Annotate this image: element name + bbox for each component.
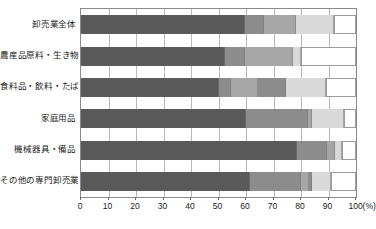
bar-segment[interactable] (246, 109, 308, 128)
x-tick-mark-80 (300, 197, 301, 200)
bar-segment[interactable] (81, 109, 246, 128)
x-tick-mark-40 (190, 197, 191, 200)
x-tick-label-30: 30 (158, 201, 167, 211)
x-tick-label-80: 80 (295, 201, 304, 211)
x-axis: 0102030405060708090100(%) (80, 197, 355, 219)
category-axis: 卸売業全体 農産品原料・生き物 食料品・飲料・たばこ 家庭用品 機械器具・備品 … (0, 0, 78, 196)
plot-area (80, 8, 357, 198)
bar-segment[interactable] (286, 78, 326, 97)
category-label-5: その他の専門卸売業 (0, 175, 76, 185)
x-tick-label-50: 50 (213, 201, 222, 211)
bar-segment[interactable] (81, 78, 219, 97)
bar-segment[interactable] (301, 47, 356, 66)
bar-row[interactable] (81, 109, 356, 128)
bar-segment[interactable] (301, 172, 309, 191)
category-label-3: 家庭用品 (0, 113, 76, 123)
x-tick-label-40: 40 (185, 201, 194, 211)
bar-segment[interactable] (81, 47, 225, 66)
bars-layer (81, 9, 356, 197)
bar-segment[interactable] (245, 15, 264, 34)
x-tick-mark-30 (163, 197, 164, 200)
bar-segment[interactable] (264, 15, 296, 34)
category-label-0: 卸売業全体 (0, 19, 76, 29)
bar-segment[interactable] (312, 172, 331, 191)
bar-segment[interactable] (327, 141, 335, 160)
bar-segment[interactable] (331, 172, 356, 191)
bar-segment[interactable] (334, 15, 356, 34)
bar-segment[interactable] (231, 78, 259, 97)
x-tick-mark-90 (328, 197, 329, 200)
x-tick-label-10: 10 (103, 201, 112, 211)
bar-row[interactable] (81, 47, 356, 66)
category-label-1: 農産品原料・生き物 (0, 50, 76, 60)
x-tick-label-60: 60 (240, 201, 249, 211)
x-tick-label-100: 100(%) (348, 201, 375, 211)
bar-segment[interactable] (258, 78, 286, 97)
bar-segment[interactable] (250, 172, 301, 191)
bar-segment[interactable] (245, 47, 293, 66)
bar-row[interactable] (81, 141, 356, 160)
x-tick-label-20: 20 (130, 201, 139, 211)
bar-row[interactable] (81, 78, 356, 97)
bar-row[interactable] (81, 172, 356, 191)
bar-segment[interactable] (81, 172, 250, 191)
bar-segment[interactable] (81, 15, 245, 34)
bar-segment[interactable] (293, 47, 301, 66)
category-label-4: 機械器具・備品 (0, 144, 76, 154)
x-tick-label-0: 0 (78, 201, 83, 211)
bar-segment[interactable] (342, 141, 356, 160)
x-tick-mark-10 (108, 197, 109, 200)
x-tick-mark-0 (80, 197, 81, 200)
bar-segment[interactable] (81, 141, 297, 160)
bar-row[interactable] (81, 15, 356, 34)
x-tick-mark-70 (273, 197, 274, 200)
x-tick-mark-60 (245, 197, 246, 200)
category-label-2: 食料品・飲料・たばこ (0, 81, 76, 91)
bar-segment[interactable] (225, 47, 244, 66)
bar-segment[interactable] (296, 15, 335, 34)
x-tick-label-90: 90 (323, 201, 332, 211)
bar-segment[interactable] (219, 78, 231, 97)
bar-segment[interactable] (326, 78, 356, 97)
x-tick-label-70: 70 (268, 201, 277, 211)
bar-segment[interactable] (335, 141, 342, 160)
x-tick-mark-20 (135, 197, 136, 200)
bar-segment[interactable] (312, 109, 344, 128)
bar-segment[interactable] (344, 109, 356, 128)
x-tick-mark-50 (218, 197, 219, 200)
bar-segment[interactable] (297, 141, 327, 160)
x-tick-mark-100 (355, 197, 356, 200)
